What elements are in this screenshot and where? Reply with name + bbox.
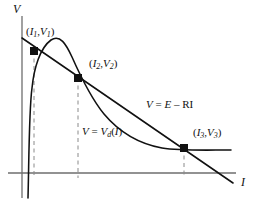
- diode-curve-equation-label: V = Vd(I): [82, 126, 122, 139]
- paren-close: ): [114, 57, 118, 69]
- intersection-point-3: [180, 144, 188, 152]
- load-line-equation-label: V = E – RI: [146, 99, 193, 110]
- point1-v: V: [40, 25, 47, 37]
- intersection-point-2: [74, 74, 82, 82]
- point-label-1: (I1,V1): [26, 26, 54, 39]
- load-ri: RI: [182, 98, 193, 110]
- axis-label-v: V: [13, 3, 20, 15]
- paren-close: ): [51, 25, 55, 37]
- load-equals: =: [153, 98, 165, 110]
- axis-label-i: I: [241, 176, 245, 188]
- load-v: V: [146, 98, 153, 110]
- vi-characteristic-figure: V I (I1,V1) (I2,V2) (I3,V3) V = E – RI V…: [0, 0, 256, 212]
- point-label-3: (I3,V3): [193, 127, 221, 140]
- point3-v: V: [207, 126, 214, 138]
- paren-close: ): [218, 126, 222, 138]
- diode-equals: =: [89, 125, 101, 137]
- load-line: [22, 38, 233, 183]
- load-minus: –: [171, 98, 182, 110]
- diode-paren-close: ): [118, 125, 122, 137]
- diode-v: V: [82, 125, 89, 137]
- intersection-point-1: [30, 47, 38, 55]
- point2-v: V: [103, 57, 110, 69]
- point-label-2: (I2,V2): [89, 58, 117, 71]
